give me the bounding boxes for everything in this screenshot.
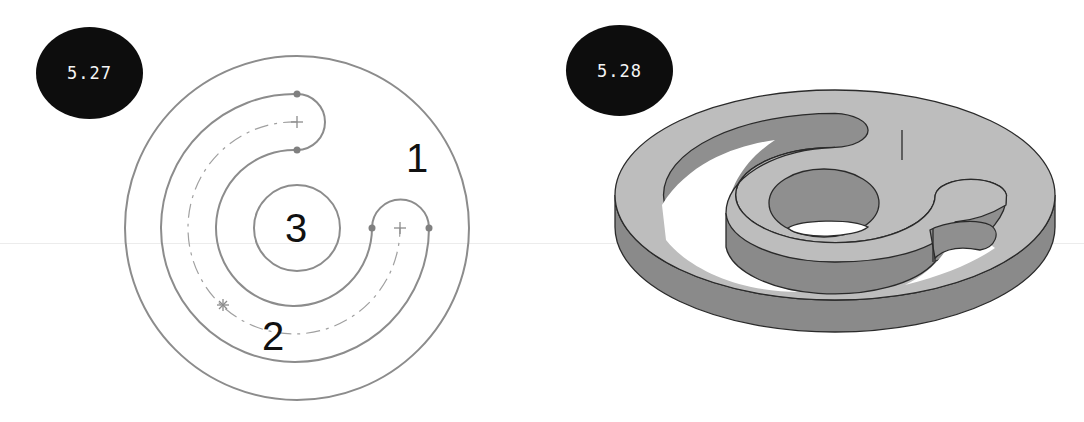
region-label-3: 3 [285, 206, 307, 250]
region-label-1: 1 [406, 136, 428, 180]
endpoint-marker [294, 147, 301, 154]
part-5-28 [615, 90, 1055, 332]
asterisk-marker [217, 299, 229, 311]
region-label-2: 2 [262, 314, 284, 358]
endpoint-marker [369, 225, 376, 232]
endpoint-marker [294, 91, 301, 98]
drawing-layer: 1 2 3 [0, 0, 1084, 422]
figure-badge-5-27: 5.27 [36, 27, 143, 119]
endpoint-marker [426, 225, 433, 232]
figure-canvas: 1 2 3 [0, 0, 1084, 422]
figure-badge-5-28: 5.28 [566, 25, 673, 116]
